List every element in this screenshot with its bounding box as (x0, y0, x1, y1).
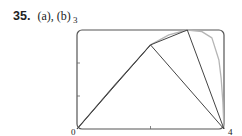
polygon-line (77, 30, 224, 129)
y-tick-label-3: 3 (73, 15, 78, 25)
x-tick-label-4: 4 (228, 127, 233, 136)
x-tick-label-0: 0 (71, 127, 76, 136)
plot-series (77, 30, 224, 129)
plot: 0 4 3 (0, 0, 242, 136)
polygon-line (77, 45, 224, 129)
